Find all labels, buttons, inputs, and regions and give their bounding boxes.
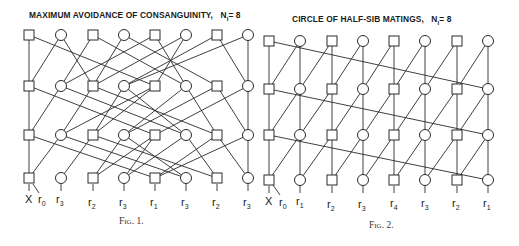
label-r3: r3 — [358, 198, 366, 212]
male-node-square — [24, 173, 34, 183]
male-node-square — [24, 30, 34, 40]
female-node-circle — [483, 175, 494, 186]
female-node-circle — [295, 130, 306, 141]
female-node-circle — [56, 130, 67, 141]
male-node-square — [150, 130, 160, 140]
female-node-circle — [483, 84, 494, 95]
female-node-circle — [295, 84, 306, 95]
female-node-circle — [420, 36, 431, 47]
male-node-square — [452, 130, 462, 140]
male-node-square — [212, 173, 222, 183]
figure-2-nodes — [264, 36, 494, 186]
figure-2-pedigree-graph: X r0 r1 r2 r3 r4 r3 r2 r1 — [259, 0, 519, 246]
male-node-square — [389, 84, 399, 94]
female-node-circle — [420, 130, 431, 141]
female-node-circle — [295, 175, 306, 186]
male-node-square — [264, 175, 274, 185]
male-node-square — [452, 84, 462, 94]
figure-1-caption: Fig. 1. — [119, 216, 144, 226]
female-node-circle — [483, 36, 494, 47]
figure-1-pedigree-graph: X r0 r3 r2 r3 r1 r3 r2 r3 — [0, 0, 260, 246]
label-r3: r3 — [421, 197, 429, 211]
female-node-circle — [420, 175, 431, 186]
label-r2: r2 — [452, 197, 460, 211]
label-r3: r3 — [119, 196, 127, 210]
male-node-square — [264, 130, 274, 140]
figure-1-nodes — [24, 30, 254, 184]
label-r2: r2 — [88, 196, 96, 210]
figure-2-half-sib-circle: CIRCLE OF HALF-SIB MATINGS, NI= 8 — [259, 0, 519, 246]
male-node-square — [452, 175, 462, 185]
label-r2: r2 — [327, 198, 335, 212]
female-node-circle — [243, 30, 254, 41]
male-node-square — [327, 84, 337, 94]
female-node-circle — [243, 130, 254, 141]
male-node-square — [327, 130, 337, 140]
label-r3: r3 — [181, 196, 189, 210]
figure-2-edges — [269, 41, 488, 195]
male-node-square — [389, 36, 399, 46]
label-x: X — [25, 193, 33, 205]
label-r1: r1 — [483, 197, 491, 211]
female-node-circle — [181, 130, 192, 141]
female-node-circle — [181, 81, 192, 92]
figure-1-edges — [29, 35, 248, 193]
male-node-square — [88, 81, 98, 91]
male-node-square — [212, 81, 222, 91]
label-r1: r1 — [150, 196, 158, 210]
female-node-circle — [358, 175, 369, 186]
male-node-square — [88, 173, 98, 183]
label-x: X — [265, 195, 273, 207]
female-node-circle — [119, 81, 130, 92]
male-node-square — [389, 130, 399, 140]
female-node-circle — [181, 30, 192, 41]
female-node-circle — [119, 173, 130, 184]
label-r3: r3 — [243, 196, 251, 210]
female-node-circle — [483, 130, 494, 141]
male-node-square — [327, 175, 337, 185]
label-r0: r0 — [38, 193, 46, 207]
male-node-square — [88, 30, 98, 40]
label-r0: r0 — [279, 196, 287, 210]
label-r4: r4 — [390, 197, 398, 211]
figure-2-caption: Fig. 2. — [369, 220, 394, 230]
male-node-square — [327, 36, 337, 46]
male-node-square — [150, 30, 160, 40]
male-node-square — [150, 81, 160, 91]
male-node-square — [212, 30, 222, 40]
female-node-circle — [243, 81, 254, 92]
label-r3: r3 — [56, 193, 64, 207]
female-node-circle — [119, 130, 130, 141]
female-node-circle — [56, 81, 67, 92]
figure-2-labels: X r0 r1 r2 r3 r4 r3 r2 r1 — [265, 195, 491, 212]
female-node-circle — [295, 36, 306, 47]
male-node-square — [264, 36, 274, 46]
male-node-square — [452, 36, 462, 46]
female-node-circle — [181, 173, 192, 184]
male-node-square — [88, 130, 98, 140]
male-node-square — [264, 84, 274, 94]
male-node-square — [24, 130, 34, 140]
male-node-square — [24, 81, 34, 91]
female-node-circle — [358, 36, 369, 47]
figure-1-labels: X r0 r3 r2 r3 r1 r3 r2 r3 — [25, 193, 251, 210]
female-node-circle — [420, 84, 431, 95]
male-node-square — [150, 173, 160, 183]
label-r2: r2 — [212, 196, 220, 210]
male-node-square — [389, 175, 399, 185]
label-r1: r1 — [296, 195, 304, 209]
female-node-circle — [119, 30, 130, 41]
female-node-circle — [358, 130, 369, 141]
male-node-square — [212, 130, 222, 140]
female-node-circle — [56, 173, 67, 184]
female-node-circle — [358, 84, 369, 95]
female-node-circle — [243, 173, 254, 184]
figure-1-max-avoidance: MAXIMUM AVOIDANCE OF CONSANGUINITY, NI= … — [0, 0, 260, 246]
female-node-circle — [56, 30, 67, 41]
